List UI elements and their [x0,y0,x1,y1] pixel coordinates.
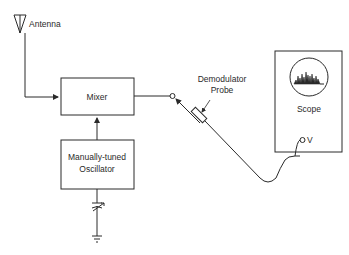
antenna-wire [25,33,58,97]
probe-label-line2: Probe [211,85,234,95]
probe-tip-terminal [170,94,175,99]
oscillator-label-line1: Manually-tuned [68,152,126,162]
variable-capacitor-icon [92,189,104,236]
block-diagram: Antenna Mixer Manually-tuned Oscillator … [0,0,349,255]
oscillator-label-line2: Oscillator [79,164,115,174]
antenna-icon [14,15,26,33]
scope-input-label: V [307,135,313,145]
scope-label: Scope [297,104,321,114]
scope-input-terminal [300,138,305,143]
ground-icon [92,236,102,242]
antenna-label: Antenna [29,19,61,29]
probe-label-line1: Demodulator [198,74,247,84]
scope-screen [290,58,328,96]
probe-callout-arrow [202,100,210,112]
mixer-label: Mixer [87,92,108,102]
